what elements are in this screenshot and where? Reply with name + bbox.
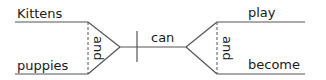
predicate-fork-bottom	[186, 47, 217, 74]
verb-become: become	[248, 57, 300, 72]
subject-conjunction-and: and	[91, 36, 106, 60]
predicate-conjunction-and: and	[220, 36, 235, 60]
auxiliary-can: can	[151, 30, 174, 45]
sentence-diagram: Kittens puppies and can play become and	[0, 0, 326, 80]
subject-puppies: puppies	[17, 58, 69, 73]
predicate-fork-top	[186, 22, 217, 47]
verb-play: play	[248, 5, 276, 20]
compound-predicate: play become and	[186, 5, 305, 74]
baseline: can	[120, 30, 186, 62]
compound-subject: Kittens puppies and	[15, 6, 120, 74]
subject-kittens: Kittens	[17, 6, 63, 21]
